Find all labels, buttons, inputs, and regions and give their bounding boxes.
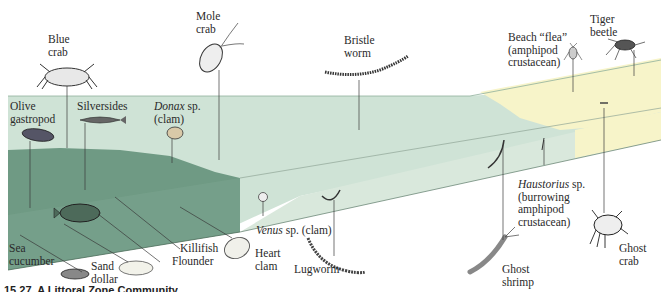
donax-clam-icon <box>167 127 183 139</box>
label-donax-genus: Donax <box>154 100 185 112</box>
label-haustorius-genus: Haustorius <box>518 178 569 190</box>
label-sand-dollar: Sand dollar <box>91 260 118 285</box>
label-venus-clam: Venus sp. (clam) <box>256 224 332 237</box>
littoral-zone-diagram: Blue crab Mole crab Bristle worm Beach “… <box>0 0 661 292</box>
label-flounder: Flounder <box>172 255 214 268</box>
label-tiger-beetle: Tiger beetle <box>590 13 617 38</box>
tiger-beetle-icon <box>606 39 645 60</box>
label-donax-clam: Donax sp. (clam) <box>154 100 201 125</box>
blue-crab-icon <box>37 64 97 89</box>
venus-clam-icon <box>259 193 268 202</box>
label-venus-genus: Venus <box>256 224 283 236</box>
label-sea-cucumber: Sea cucumber <box>9 242 54 267</box>
label-mole-crab: Mole crab <box>196 10 220 35</box>
sand-dollar-icon <box>119 261 153 275</box>
label-killifish: Killifish <box>180 242 218 255</box>
sea-cucumber-icon <box>61 269 89 279</box>
label-silversides: Silversides <box>77 100 127 113</box>
label-blue-crab: Blue crab <box>48 33 70 58</box>
label-beach-flea: Beach “flea” (amphipod crustacean) <box>508 31 567 69</box>
label-heart-clam: Heart clam <box>255 247 281 272</box>
label-lugworm: Lugworm <box>294 263 339 276</box>
label-bristle-worm: Bristle worm <box>344 34 375 59</box>
label-venus-rest: sp. (clam) <box>283 224 332 236</box>
heart-clam-icon <box>221 233 253 262</box>
label-haustorius: Haustorius sp. (burrowing amphipod crust… <box>518 178 585 228</box>
label-ghost-crab: Ghost crab <box>619 242 646 267</box>
label-olive-gastropod: Olive gastropod <box>10 100 55 125</box>
figure-caption: 15.27 A Littoral Zone Community <box>4 284 178 292</box>
label-ghost-shrimp: Ghost shrimp <box>502 263 534 288</box>
